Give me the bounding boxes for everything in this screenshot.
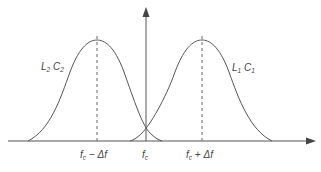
curve-l2c2 (28, 40, 162, 141)
tick-label-fc: fc (142, 150, 148, 162)
y-axis-arrow-icon (143, 7, 150, 17)
label-l1c1: L1 C1 (232, 63, 255, 75)
label-l2c2: L2 C2 (41, 62, 64, 74)
tick-label-fc-plus-df: fc + Δf (186, 150, 213, 162)
tick-label-fc-minus-df: fc − Δf (80, 150, 107, 162)
curve-l1c1 (130, 40, 272, 141)
tuning-curves-diagram (0, 0, 321, 172)
x-axis-arrow-icon (306, 138, 316, 145)
